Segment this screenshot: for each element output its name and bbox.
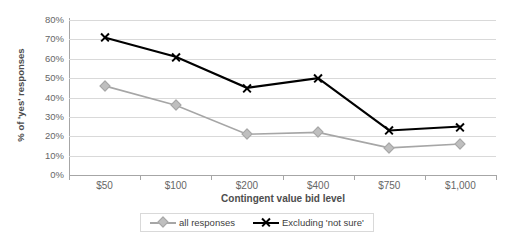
y-axis-tick-label: 40%: [24, 93, 64, 103]
x-axis-tick-label: $750: [354, 179, 424, 193]
y-axis-tick-label: 0%: [24, 170, 64, 180]
legend-item-label: all responses: [179, 217, 235, 228]
y-axis-tick-label: 30%: [24, 112, 64, 122]
legend-x-marker-icon: [253, 217, 279, 228]
x-axis-tick-label: $50: [70, 179, 140, 193]
y-axis-tick-label: 50%: [24, 73, 64, 83]
y-axis-tick-labels: 0%10%20%30%40%50%60%70%80%: [20, 0, 64, 238]
y-axis-tick-label: 80%: [24, 15, 64, 25]
plot-area: [69, 20, 496, 175]
series-line: [105, 37, 461, 130]
data-point-marker: [170, 51, 181, 62]
data-point-marker: [241, 82, 252, 93]
legend-item[interactable]: all responses: [150, 217, 235, 228]
chart-container: % of 'yes' responses 0%10%20%30%40%50%60…: [0, 0, 519, 238]
y-axis-tick-label: 60%: [24, 54, 64, 64]
x-axis-title: Contingent value bid level: [69, 193, 497, 204]
x-axis-tick-mark: [69, 176, 70, 180]
data-point-marker: [384, 125, 395, 136]
y-axis-tick-label: 20%: [24, 131, 64, 141]
data-point-marker: [313, 73, 324, 84]
x-axis-tick-label: $100: [141, 179, 211, 193]
y-axis-tick-label: 10%: [24, 151, 64, 161]
x-axis-tick-mark: [425, 176, 426, 180]
legend-item-label: Excluding 'not sure': [282, 217, 364, 228]
x-axis-tick-mark: [496, 176, 497, 180]
x-axis-tick-label: $1,000: [425, 179, 495, 193]
x-axis-tick-mark: [354, 176, 355, 180]
legend-diamond-marker-icon: [150, 217, 176, 228]
x-axis-tick-mark: [211, 176, 212, 180]
x-axis-tick-mark: [283, 176, 284, 180]
series-lines: [69, 20, 496, 175]
series-line: [105, 86, 461, 148]
x-axis-tick-label: $200: [212, 179, 282, 193]
data-point-marker: [455, 121, 466, 132]
data-point-marker: [99, 32, 110, 43]
chart-legend: all responsesExcluding 'not sure': [140, 213, 374, 232]
x-axis-tick-label: $400: [283, 179, 353, 193]
legend-item[interactable]: Excluding 'not sure': [253, 217, 364, 228]
x-axis-tick-mark: [140, 176, 141, 180]
y-axis-tick-label: 70%: [24, 34, 64, 44]
